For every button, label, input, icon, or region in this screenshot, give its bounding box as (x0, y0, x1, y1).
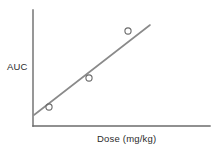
axes-group (33, 10, 210, 126)
x-axis-label: Dose (mg/kg) (97, 134, 156, 144)
data-point-marker (46, 104, 52, 110)
y-axis-label: AUC (7, 62, 28, 72)
data-point-marker (86, 75, 92, 81)
dose-auc-chart: AUC Dose (mg/kg) (0, 0, 222, 153)
linear-fit-line (34, 25, 150, 115)
data-point-marker (125, 28, 131, 34)
trend-line-group (34, 25, 150, 115)
plot-canvas (0, 0, 222, 153)
data-points-group (46, 28, 131, 110)
